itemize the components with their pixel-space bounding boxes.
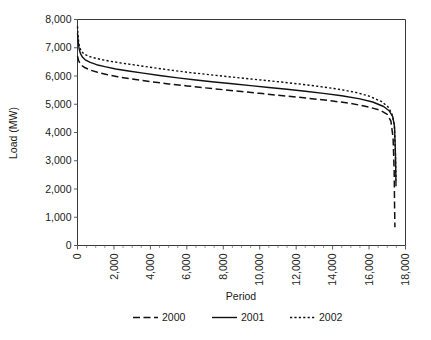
legend: 200020012002 bbox=[133, 311, 343, 323]
series-line-2002 bbox=[78, 26, 397, 180]
y-tick-label: 7,000 bbox=[45, 41, 71, 53]
x-tick-label: 8,000 bbox=[217, 253, 229, 279]
x-tick-label: 16,000 bbox=[363, 253, 375, 285]
plot-frame bbox=[78, 20, 406, 246]
y-tick-label: 5,000 bbox=[45, 98, 71, 110]
series-line-2000 bbox=[78, 56, 395, 227]
y-tick-label: 2,000 bbox=[45, 183, 71, 195]
x-tick-label: 14,000 bbox=[326, 253, 338, 285]
y-tick-label: 1,000 bbox=[45, 211, 71, 223]
x-tick-label: 4,000 bbox=[144, 253, 156, 279]
legend-label-2002: 2002 bbox=[319, 311, 343, 323]
x-tick-label: 2,000 bbox=[108, 253, 120, 279]
chart-canvas: 01,0002,0003,0004,0005,0006,0007,0008,00… bbox=[0, 0, 431, 340]
load-duration-chart: 01,0002,0003,0004,0005,0006,0007,0008,00… bbox=[0, 0, 431, 340]
plot-border bbox=[78, 20, 406, 246]
series-group bbox=[78, 26, 397, 227]
x-axis: 02,0004,0006,0008,00010,00012,00014,0001… bbox=[71, 246, 411, 286]
y-tick-label: 3,000 bbox=[45, 154, 71, 166]
legend-label-2001: 2001 bbox=[241, 311, 265, 323]
x-tick-label: 0 bbox=[71, 253, 83, 259]
x-axis-title: Period bbox=[226, 290, 257, 302]
y-tick-label: 4,000 bbox=[45, 126, 71, 138]
x-tick-label: 6,000 bbox=[180, 253, 192, 279]
y-axis: 01,0002,0003,0004,0005,0006,0007,0008,00… bbox=[45, 13, 77, 251]
y-tick-label: 8,000 bbox=[45, 13, 71, 25]
legend-label-2000: 2000 bbox=[162, 311, 186, 323]
y-axis-title: Load (MW) bbox=[7, 107, 19, 159]
x-tick-label: 18,000 bbox=[399, 253, 411, 285]
series-line-2001 bbox=[78, 33, 397, 186]
y-tick-label: 0 bbox=[66, 239, 72, 251]
x-tick-label: 12,000 bbox=[290, 253, 302, 285]
y-tick-label: 6,000 bbox=[45, 70, 71, 82]
x-tick-label: 10,000 bbox=[253, 253, 265, 285]
